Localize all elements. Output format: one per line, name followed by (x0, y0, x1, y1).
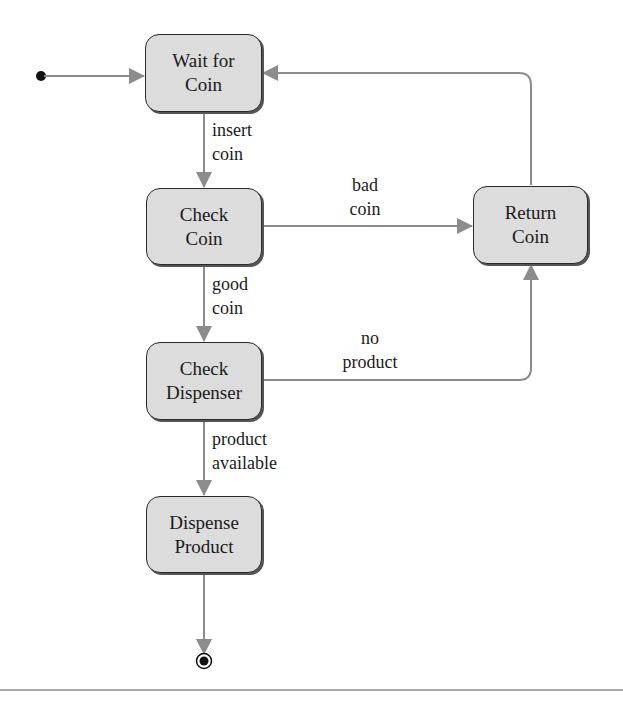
label-good-coin: good coin (212, 272, 248, 320)
state-check-dispenser: Check Dispenser (146, 342, 262, 420)
label-line: product (325, 350, 415, 374)
label-line: coin (212, 142, 252, 166)
label-line: coin (212, 296, 248, 320)
state-label: Dispenser (166, 381, 242, 405)
state-label: Coin (185, 73, 222, 97)
label-line: available (212, 451, 277, 475)
state-label: Wait for (172, 49, 234, 73)
state-wait-for-coin: Wait for Coin (145, 34, 262, 112)
state-label: Coin (186, 227, 223, 251)
label-line: product (212, 427, 277, 451)
label-no-product: no product (325, 326, 415, 374)
state-label: Check (180, 203, 229, 227)
label-insert-coin: insert coin (212, 118, 252, 166)
label-line: insert (212, 118, 252, 142)
bottom-divider (0, 689, 623, 691)
label-line: good (212, 272, 248, 296)
final-state-icon (197, 654, 212, 669)
state-check-coin: Check Coin (146, 188, 262, 265)
state-label: Check (180, 357, 229, 381)
label-bad-coin: bad coin (330, 173, 400, 221)
label-line: no (325, 326, 415, 350)
state-return-coin: Return Coin (473, 186, 588, 264)
state-label: Product (174, 535, 233, 559)
edge-return-to-wait (263, 73, 531, 185)
diagram-edges (0, 0, 623, 701)
state-label: Coin (512, 225, 549, 249)
label-line: bad (330, 173, 400, 197)
state-dispense-product: Dispense Product (146, 496, 262, 573)
state-label: Return (505, 201, 557, 225)
state-diagram: Wait for Coin Check Coin Check Dispenser… (0, 0, 623, 701)
label-product-available: product available (212, 427, 277, 475)
label-line: coin (330, 197, 400, 221)
state-label: Dispense (169, 511, 239, 535)
